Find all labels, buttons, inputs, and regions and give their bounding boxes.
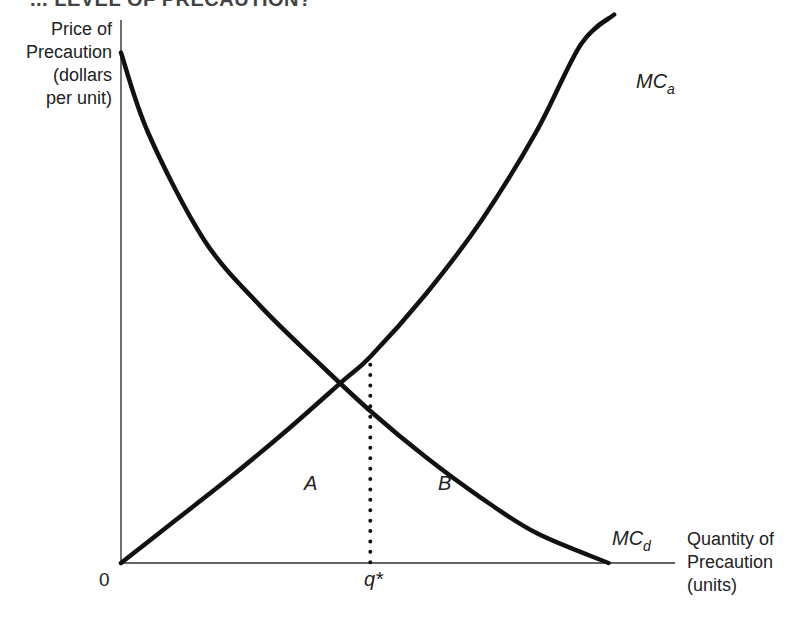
origin-label: 0 (99, 568, 110, 591)
mc-d-label-main: MC (612, 527, 643, 549)
q-star-label: q* (364, 568, 383, 591)
x-axis-label-line: Precaution (687, 551, 774, 574)
mc-d-label-sub: d (643, 538, 651, 554)
mc-a-label: MCa (636, 70, 675, 97)
area-a-label: A (304, 472, 317, 495)
y-axis-label-line: Price of (26, 18, 112, 41)
mc-a-curve (121, 15, 614, 563)
y-axis-label-line: (dollars (26, 64, 112, 87)
y-axis-label-line: Precaution (26, 41, 112, 64)
x-axis-label-line: Quantity of (687, 528, 774, 551)
y-axis-label-line: per unit) (26, 87, 112, 110)
mc-d-label: MCd (612, 527, 651, 554)
y-axis-label: Price of Precaution (dollars per unit) (26, 18, 112, 110)
mc-a-label-sub: a (667, 81, 675, 97)
area-b-label: B (438, 472, 451, 495)
x-axis-label: Quantity of Precaution (units) (687, 528, 774, 597)
mc-a-label-main: MC (636, 70, 667, 92)
x-axis-label-line: (units) (687, 574, 774, 597)
